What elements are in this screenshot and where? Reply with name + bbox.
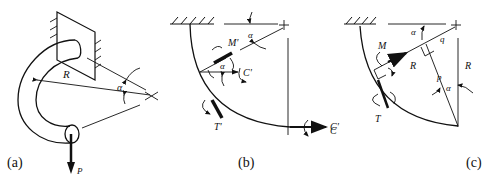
reference-lines-c (374, 20, 473, 127)
wall-plate (50, 12, 101, 80)
fixed-support-c (344, 17, 376, 24)
panel-a: R α P (a) (7, 12, 158, 176)
caption-b: (b) (238, 155, 255, 171)
label-load: P (76, 166, 83, 176)
label-angle-mid-c: α (446, 83, 451, 93)
label-angle-top-b: α (248, 30, 253, 40)
label-couple-b: C' (243, 67, 253, 78)
label-couple-left-c: C (330, 125, 337, 136)
caption-c: (c) (466, 155, 482, 171)
label-q-c: q (440, 34, 445, 44)
label-moment-b: M' (227, 37, 239, 48)
label-radius-vertical-c: R (464, 60, 471, 71)
label-radius-along-c: R (409, 60, 416, 71)
torque-vector-b (202, 100, 222, 118)
moment-vector-c (376, 52, 406, 76)
label-moment-c: M (377, 40, 387, 51)
label-p-c: p (436, 72, 442, 82)
label-angle-inner-b: α (220, 61, 225, 71)
fixed-support (170, 17, 214, 24)
caption-a: (a) (7, 155, 23, 171)
label-torque-c: T (375, 113, 382, 124)
label-angle: α (117, 82, 123, 93)
angle-arrow-b (222, 76, 224, 86)
panel-b: M' α α C' T' C' (b) (170, 12, 340, 171)
radius-lines (37, 58, 158, 128)
panel-c: M T R q p α α R C (c) (330, 17, 482, 171)
label-torque-b: T' (214, 121, 223, 132)
figure-canvas: R α P (a) (0, 0, 494, 181)
label-angle-top-c: α (411, 27, 416, 37)
end-couple-b (290, 120, 326, 136)
quarter-arc (190, 24, 290, 127)
label-radius: R (62, 68, 70, 80)
torque-vector-c (372, 80, 395, 108)
load-arrow (67, 134, 75, 174)
